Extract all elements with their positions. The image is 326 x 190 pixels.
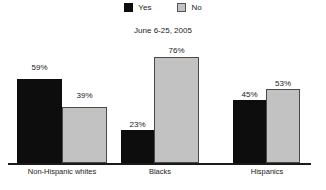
bar-blacks-no bbox=[154, 57, 199, 163]
bar-non-hispanic-whites-no bbox=[62, 107, 107, 163]
bar-value-blacks-yes: 23% bbox=[121, 120, 154, 129]
group-label-blacks: Blacks bbox=[115, 167, 205, 177]
plot-area: 59% 39% Non-Hispanic whites 23% 76% Blac… bbox=[0, 0, 326, 190]
bar-value-non-hispanic-whites-no: 39% bbox=[62, 91, 107, 100]
bar-value-blacks-no: 76% bbox=[154, 46, 199, 55]
group-label-non-hispanic-whites: Non-Hispanic whites bbox=[7, 167, 117, 177]
bar-non-hispanic-whites-yes bbox=[17, 79, 62, 163]
bar-hispanics-no bbox=[266, 89, 300, 163]
bar-hispanics-yes bbox=[233, 100, 266, 163]
x-axis-baseline bbox=[8, 163, 311, 165]
bar-value-non-hispanic-whites-yes: 59% bbox=[17, 63, 62, 72]
bar-value-hispanics-no: 53% bbox=[266, 79, 300, 88]
group-label-hispanics: Hispanics bbox=[222, 167, 312, 177]
bar-value-hispanics-yes: 45% bbox=[233, 90, 266, 99]
bar-chart: Yes No June 6-25, 2005 59% 39% Non-Hispa… bbox=[0, 0, 326, 190]
bar-blacks-yes bbox=[121, 130, 154, 163]
